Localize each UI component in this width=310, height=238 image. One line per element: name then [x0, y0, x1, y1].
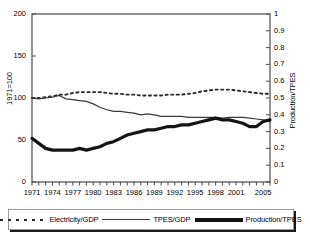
x-tick-label: 2001	[223, 188, 249, 197]
legend-item[interactable]: TPES/GDP	[102, 215, 190, 224]
y-tick-label-right: 0.9	[274, 26, 298, 35]
y-tick-label-left: 50	[4, 135, 26, 144]
legend-swatch-thin-line	[102, 219, 150, 220]
y-tick-label-right: 0.8	[274, 43, 298, 52]
y-tick-label-right: 0.2	[274, 143, 298, 152]
chart-legend: Electricity/GDPTPES/GDPProduction/TPES	[8, 209, 294, 230]
legend-label: Electricity/GDP	[49, 215, 98, 224]
legend-swatch-thick-line	[195, 218, 243, 222]
legend-label: Production/TPES	[246, 215, 302, 224]
y-tick-label-right: 0.7	[274, 59, 298, 68]
plot-canvas	[0, 0, 310, 238]
series-line-tpes-gdp	[32, 95, 270, 121]
series-line-production-tpes	[32, 118, 270, 150]
legend-item[interactable]: Production/TPES	[195, 215, 302, 224]
y-tick-label-right: 1	[274, 9, 298, 18]
y-tick-label-left: 0	[4, 177, 26, 186]
y-axis-left-title: 1971=100	[5, 59, 14, 119]
y-tick-label-left: 150	[4, 51, 26, 60]
series-line-electricity-gdp	[32, 90, 270, 98]
legend-label: TPES/GDP	[153, 215, 190, 224]
chart-figure: 1971=100 Production/TPES 050100150200 00…	[0, 0, 310, 238]
plot-frame	[32, 14, 270, 182]
y-tick-label-left: 200	[4, 9, 26, 18]
legend-item[interactable]: Electricity/GDP	[0, 215, 98, 224]
x-tick-label: 2005	[250, 188, 276, 197]
y-tick-label-right: 0.3	[274, 127, 298, 136]
legend-swatch-dotted	[0, 219, 46, 221]
y-tick-label-left: 100	[4, 93, 26, 102]
y-tick-label-right: 0.6	[274, 76, 298, 85]
y-tick-label-right: 0.5	[274, 93, 298, 102]
y-tick-label-right: 0	[274, 177, 298, 186]
y-tick-label-right: 0.1	[274, 160, 298, 169]
y-tick-label-right: 0.4	[274, 110, 298, 119]
